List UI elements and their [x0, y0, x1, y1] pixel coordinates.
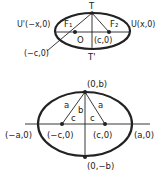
bottom-right-focus-dot — [103, 122, 107, 126]
label-U: U(x,0) — [131, 20, 155, 29]
label-U-prime: U'(−x,0) — [17, 20, 50, 29]
label-F1: F₁ — [64, 19, 72, 29]
label-T-prime: T' — [87, 52, 96, 62]
label-left-vertex: (−a,0) — [5, 130, 32, 140]
label-F2: F₂ — [110, 19, 118, 29]
label-side-a-left: a — [64, 100, 69, 110]
label-side-b: b — [78, 105, 83, 115]
top-vertex-T-dot — [90, 11, 94, 15]
bottom-left-focus-dot — [60, 122, 64, 126]
label-focus-left: (−c,0) — [24, 49, 49, 58]
top-diagram: T T' F₁ F₂ U'(−x,0) U(x,0) O (c,0) (−c,0… — [17, 1, 155, 62]
label-focus-right: (c,0) — [94, 36, 112, 45]
label-right-vertex: (a,0) — [134, 130, 154, 140]
bottom-diagram: (0,b) (0,−b) (−a,0) (a,0) (−c,0) (c,0) a… — [5, 79, 154, 171]
label-side-c-right: c — [90, 113, 95, 123]
label-bottom-vertex: (0,−b) — [87, 161, 114, 171]
label-side-a-right: a — [98, 100, 103, 110]
label-side-c-left: c — [71, 113, 76, 123]
label-left-focus: (−c,0) — [47, 130, 74, 140]
label-right-focus: (c,0) — [93, 130, 112, 140]
label-top-vertex: (0,b) — [87, 79, 107, 89]
focus-F1-dot — [73, 30, 77, 34]
label-T: T — [88, 1, 95, 11]
ellipse-diagrams: T T' F₁ F₂ U'(−x,0) U(x,0) O (c,0) (−c,0… — [0, 0, 167, 182]
focus-F2-dot — [107, 30, 111, 34]
top-line-T-F2 — [92, 13, 109, 32]
bottom-top-vertex-dot — [83, 90, 87, 94]
bottom-bottom-vertex-dot — [83, 155, 87, 159]
label-origin: O — [77, 35, 84, 45]
